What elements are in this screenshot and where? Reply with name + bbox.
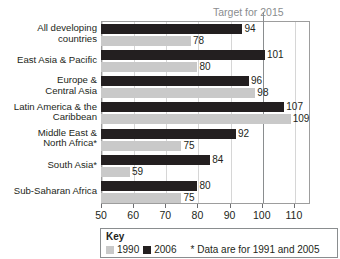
- category-label: Sub-Saharan Africa: [0, 186, 97, 197]
- bar-value-label: 75: [183, 193, 194, 203]
- bar-value-label: 94: [244, 24, 255, 34]
- x-tick-label: 90: [224, 209, 236, 221]
- category-label: All developingcountries: [0, 23, 97, 44]
- legend-title: Key: [106, 231, 124, 242]
- bar-2006-4[interactable]: [101, 129, 236, 139]
- category-label-line: Middle East &: [0, 128, 97, 139]
- x-tick-mark: [133, 204, 134, 208]
- category-label-line: Central Asia: [0, 86, 97, 97]
- x-tick-mark: [165, 204, 166, 208]
- x-tick-mark: [197, 204, 198, 208]
- category-label-line: countries: [0, 34, 97, 45]
- legend-footnote: * Data are for 1991 and 2005: [191, 244, 320, 255]
- category-label-line: Europe &: [0, 76, 97, 87]
- category-label: Middle East &North Africa*: [0, 128, 97, 149]
- x-tick-mark: [262, 204, 263, 208]
- bar-1990-5[interactable]: [101, 167, 130, 177]
- legend-swatch-icon: [143, 246, 151, 254]
- category-label: Europe &Central Asia: [0, 76, 97, 97]
- x-tick-label: 110: [286, 209, 303, 221]
- category-label: South Asia*: [0, 159, 97, 170]
- bar-value-label: 75: [183, 141, 194, 151]
- x-tick-label: 50: [95, 209, 107, 221]
- category-label-line: East Asia & Pacific: [0, 55, 97, 66]
- legend: Key 19902006* Data are for 1991 and 2005: [100, 228, 338, 258]
- legend-item-label: 2006: [154, 244, 176, 255]
- bar-1990-2[interactable]: [101, 88, 255, 98]
- target-annotation-label: Target for 2015: [213, 6, 284, 18]
- legend-item-label: 1990: [117, 244, 139, 255]
- bar-1990-6[interactable]: [101, 193, 181, 203]
- bar-1990-4[interactable]: [101, 141, 181, 151]
- category-label-line: South Asia*: [0, 159, 97, 170]
- category-label-line: Latin America & the: [0, 102, 97, 113]
- x-tick-label: 80: [192, 209, 204, 221]
- category-label-line: Sub-Saharan Africa: [0, 186, 97, 197]
- category-label: Latin America & theCaribbean: [0, 102, 97, 123]
- legend-swatch-icon: [106, 246, 114, 254]
- bar-value-label: 78: [193, 36, 204, 46]
- chart-title: [0, 0, 340, 3]
- x-tick-label: 100: [253, 209, 271, 221]
- legend-entries: 19902006* Data are for 1991 and 2005: [106, 244, 319, 255]
- category-axis: All developingcountriesEast Asia & Pacif…: [0, 21, 97, 204]
- bar-value-label: 101: [267, 50, 284, 60]
- x-tick-mark: [101, 204, 102, 208]
- bar-value-label: 96: [251, 76, 262, 86]
- bar-value-label: 80: [199, 62, 210, 72]
- bar-2006-6[interactable]: [101, 181, 197, 191]
- legend-item-1990[interactable]: 1990: [106, 244, 139, 255]
- bar-1990-0[interactable]: [101, 36, 191, 46]
- bar-2006-2[interactable]: [101, 76, 249, 86]
- bar-value-label: 80: [199, 181, 210, 191]
- category-label: East Asia & Pacific: [0, 55, 97, 66]
- x-tick-label: 70: [159, 209, 171, 221]
- category-label-line: North Africa*: [0, 139, 97, 150]
- bar-2006-1[interactable]: [101, 50, 265, 60]
- bar-value-label: 107: [286, 102, 303, 112]
- legend-item-2006[interactable]: 2006: [143, 244, 176, 255]
- x-tick-mark: [294, 204, 295, 208]
- bar-value-label: 84: [212, 155, 223, 165]
- category-label-line: All developing: [0, 23, 97, 34]
- bar-1990-3[interactable]: [101, 114, 291, 124]
- x-tick-label: 60: [127, 209, 139, 221]
- bar-value-label: 92: [238, 129, 249, 139]
- x-axis: 5060708090100110: [101, 204, 310, 224]
- category-label-line: Caribbean: [0, 113, 97, 124]
- bar-1990-1[interactable]: [101, 62, 197, 72]
- bar-value-label: 109: [293, 114, 310, 124]
- bars-layer: 9478101809698107109927584598075: [101, 21, 310, 204]
- bar-2006-3[interactable]: [101, 102, 284, 112]
- bar-2006-0[interactable]: [101, 24, 242, 34]
- x-tick-mark: [230, 204, 231, 208]
- bar-value-label: 59: [132, 167, 143, 177]
- bar-chart: Target for 2015 All developingcountriesE…: [0, 0, 340, 259]
- bar-value-label: 98: [257, 88, 268, 98]
- bar-2006-5[interactable]: [101, 155, 210, 165]
